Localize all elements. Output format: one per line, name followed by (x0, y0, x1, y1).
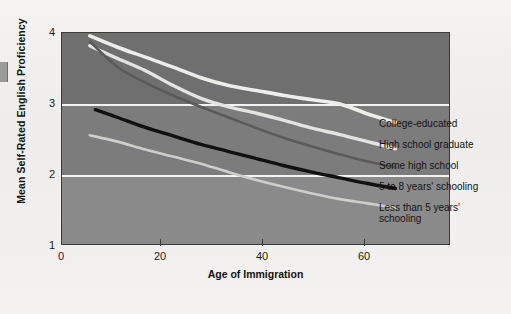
x-tick-label-0: 0 (51, 250, 71, 262)
series-line-some-high-school (90, 42, 396, 168)
series-line-high-school-graduate (90, 46, 396, 149)
x-tick-label-40: 40 (252, 250, 272, 262)
chart-figure: Mean Self-Rated English Proficiency 4 3 … (0, 0, 511, 314)
y-tick-label-3: 3 (41, 97, 55, 109)
x-tick-mark-60 (364, 239, 365, 246)
x-tick-mark-40 (262, 239, 263, 246)
x-axis-title: Age of Immigration (61, 268, 450, 280)
page-edge-mark (0, 62, 8, 82)
legend-item-some-high-school: Some high school (379, 160, 459, 171)
y-axis-title: Mean Self-Rated English Proficiency (15, 11, 27, 211)
legend-item-high-school-graduate: High school graduate (379, 139, 474, 150)
x-tick-mark-20 (160, 239, 161, 246)
series-line-less-than-5-years-schooling (90, 135, 396, 207)
legend-item-college-educated: College-educated (379, 118, 457, 129)
x-tick-label-20: 20 (150, 250, 170, 262)
y-tick-label-2: 2 (41, 168, 55, 180)
y-tick-label-4: 4 (41, 26, 55, 38)
legend-item-5-to-8-years-schooling: 5 to 8 years' schooling (379, 181, 478, 192)
legend-item-less-than-5-years-schooling: Less than 5 years' schooling (379, 202, 460, 224)
x-tick-label-60: 60 (354, 250, 374, 262)
